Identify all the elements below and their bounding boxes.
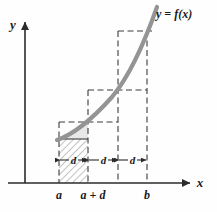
function-curve bbox=[57, 7, 157, 140]
width-label-1: d bbox=[71, 154, 77, 166]
function-label: y = f(x) bbox=[154, 7, 192, 21]
y-axis-label: y bbox=[8, 17, 16, 32]
riemann-sum-diagram: y x y = f(x) a a + d b d d d bbox=[0, 0, 217, 212]
figure-container: y x y = f(x) a a + d b d d d bbox=[0, 0, 217, 212]
tick-label-a-plus-d: a + d bbox=[81, 188, 107, 202]
tick-label-a: a bbox=[56, 188, 62, 202]
width-label-3: d bbox=[130, 154, 136, 166]
x-axis-label: x bbox=[196, 175, 204, 190]
tick-label-b: b bbox=[144, 188, 150, 202]
width-label-2: d bbox=[101, 154, 107, 166]
